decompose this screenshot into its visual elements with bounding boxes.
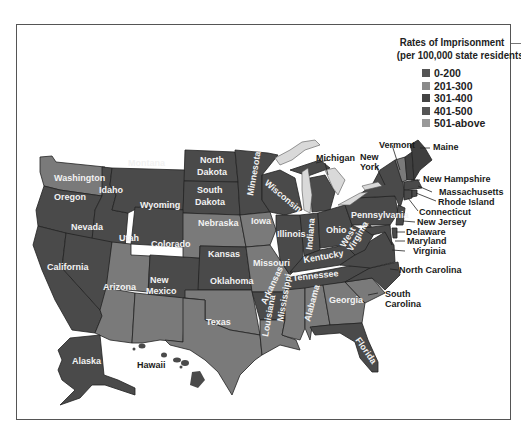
label-new-jersey: New Jersey (417, 217, 467, 227)
leader-connecticut (408, 198, 418, 211)
swatch-401-500 (422, 107, 430, 115)
legend-item-0-200: 0-200 (422, 67, 485, 80)
label-california: California (47, 262, 90, 272)
label-pennsylvania: Pennsylvania (351, 210, 410, 220)
label-south-dakota-1: South (197, 185, 223, 195)
label-georgia: Georgia (329, 295, 364, 305)
leader-massachusetts (418, 186, 432, 192)
swatch-301-400 (422, 94, 430, 102)
swatch-0-200 (422, 69, 430, 77)
label-alaska: Alaska (72, 356, 102, 366)
state-alaska (58, 335, 135, 405)
label-vermont: Vermont (379, 140, 415, 150)
state-massachusetts (404, 180, 422, 190)
label-new-york-2: York (360, 162, 380, 172)
legend-title-line2: (per 100,000 state residents) (397, 49, 507, 62)
label-north-dakota-2: Dakota (197, 167, 228, 177)
legend-items: 0-200 201-300 301-400 401-500 501-above (422, 67, 485, 130)
swatch-501-above (422, 119, 430, 127)
label-michigan: Michigan (316, 153, 355, 163)
label-massachusetts: Massachusetts (439, 187, 504, 197)
label-connecticut: Connecticut (419, 207, 471, 217)
swatch-201-300 (422, 82, 430, 90)
label-oregon: Oregon (54, 192, 86, 202)
label-wyoming: Wyoming (140, 200, 180, 210)
label-maine: Maine (433, 142, 459, 152)
legend-label: 401-500 (434, 105, 473, 117)
leader-new-jersey (403, 221, 415, 222)
legend-item-401-500: 401-500 (422, 105, 485, 118)
lake-superior (275, 140, 320, 165)
label-nebraska: Nebraska (198, 218, 240, 228)
label-maryland: Maryland (407, 236, 447, 246)
label-illinois: Illinois (277, 229, 306, 239)
state-delaware (392, 228, 397, 238)
label-oklahoma: Oklahoma (210, 276, 255, 286)
label-kansas: Kansas (208, 249, 240, 259)
label-hawaii: Hawaii (137, 360, 166, 370)
label-north-dakota-1: North (200, 155, 224, 165)
label-idaho: Idaho (99, 185, 124, 195)
leader-rhode-island (416, 193, 436, 201)
label-montana: Montana (128, 158, 166, 168)
label-north-carolina: North Carolina (399, 265, 462, 275)
label-colorado: Colorado (151, 239, 191, 249)
legend-item-301-400: 301-400 (422, 92, 485, 105)
legend-item-501-above: 501-above (422, 117, 485, 130)
label-nevada: Nevada (71, 222, 104, 232)
legend-label: 301-400 (434, 92, 473, 104)
label-arizona: Arizona (103, 282, 137, 292)
label-south-carolina-1: South (385, 289, 411, 299)
label-texas: Texas (206, 317, 231, 327)
label-new-mexico-1: New (150, 275, 170, 285)
label-new-mexico-2: Mexico (146, 286, 177, 296)
legend: Rates of Imprisonment (per 100,000 state… (392, 36, 512, 62)
state-new-mexico (132, 293, 185, 343)
label-new-york-1: New (360, 152, 380, 162)
legend-label: 0-200 (434, 67, 461, 79)
label-south-carolina-2: Carolina (385, 299, 422, 309)
us-map: Washington Oregon California Idaho Nevad… (0, 0, 521, 435)
label-missouri: Missouri (253, 258, 290, 268)
label-washington: Washington (54, 173, 105, 183)
label-rhode-island: Rhode Island (438, 197, 495, 207)
label-new-hampshire: New Hampshire (423, 174, 491, 184)
label-south-dakota-2: Dakota (195, 197, 226, 207)
legend-label: 501-above (434, 117, 485, 129)
label-utah: Utah (119, 233, 139, 243)
label-iowa: Iowa (251, 216, 272, 226)
legend-item-201-300: 201-300 (422, 80, 485, 93)
label-virginia: Virginia (413, 246, 447, 256)
legend-title-line1: Rates of Imprisonment (397, 36, 507, 49)
legend-label: 201-300 (434, 80, 473, 92)
